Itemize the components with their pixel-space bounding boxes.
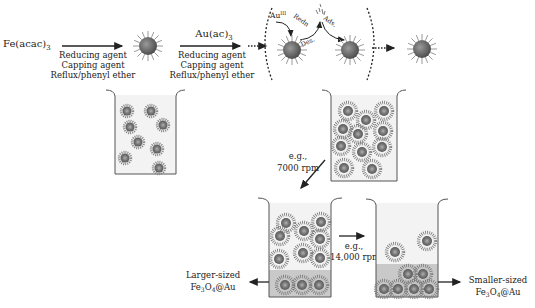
svg-text:Fe3O4@Au: Fe3O4@Au bbox=[190, 282, 236, 293]
svg-text:Capping agent: Capping agent bbox=[61, 60, 125, 70]
svg-text:Reflux/phenyl ether: Reflux/phenyl ether bbox=[170, 70, 256, 80]
fe3o4-nanoparticle-icon bbox=[133, 31, 163, 61]
step2-precursor-label: Au(ac)3 bbox=[194, 28, 233, 42]
step1-precursor-label: Fe(acac)3 bbox=[3, 38, 51, 52]
beaker-fe3o4-au-dispersed bbox=[322, 90, 406, 181]
svg-text:Reflux/phenyl ether: Reflux/phenyl ether bbox=[51, 70, 137, 80]
mechanism-labels: AuIII Redn Des. Ads. bbox=[269, 10, 338, 49]
centrifuge-14000rpm-label: e.g., 14,000 rpm bbox=[330, 241, 380, 262]
reduction-arrow bbox=[276, 22, 291, 36]
beaker-fe3o4 bbox=[106, 90, 185, 174]
beaker-larger-sediment bbox=[258, 198, 342, 297]
synthesis-diagram: Fe(acac)3 Reducing agent Capping agent R… bbox=[0, 0, 535, 308]
svg-text:7000 rpm: 7000 rpm bbox=[277, 163, 319, 173]
svg-text:Des.: Des. bbox=[299, 35, 315, 48]
au-reduction-particle-icon bbox=[277, 35, 307, 65]
svg-text:e.g.,: e.g., bbox=[345, 241, 364, 251]
fe3o4-au-nanoparticle-icon bbox=[407, 34, 437, 64]
svg-text:Reducing agent: Reducing agent bbox=[178, 50, 246, 60]
centrifuge-7000rpm-label: e.g., 7000 rpm bbox=[277, 151, 319, 173]
svg-text:Larger-sized: Larger-sized bbox=[186, 270, 241, 280]
step1-conditions: Reducing agent Capping agent Reflux/phen… bbox=[51, 50, 137, 80]
svg-text:Capping agent: Capping agent bbox=[180, 60, 244, 70]
svg-text:AuIII: AuIII bbox=[269, 10, 286, 20]
beaker-smaller-sediment bbox=[366, 199, 448, 298]
ligand-fragments-icon bbox=[316, 4, 325, 15]
step2-conditions: Reducing agent Capping agent Reflux/phen… bbox=[170, 50, 256, 80]
svg-text:e.g.,: e.g., bbox=[289, 151, 308, 161]
svg-text:Au(ac)3: Au(ac)3 bbox=[194, 28, 233, 42]
au-adsorption-particle-icon bbox=[335, 35, 365, 65]
svg-text:14,000 rpm: 14,000 rpm bbox=[330, 252, 380, 262]
mechanism-bracket bbox=[265, 8, 374, 80]
svg-text:Smaller-sized: Smaller-sized bbox=[469, 275, 528, 285]
svg-text:Fe3O4@Au: Fe3O4@Au bbox=[475, 287, 521, 298]
svg-text:Reducing agent: Reducing agent bbox=[59, 50, 127, 60]
svg-text:Redn: Redn bbox=[292, 12, 311, 28]
smaller-sized-product-label: Smaller-sized Fe3O4@Au bbox=[469, 275, 528, 298]
larger-sized-product-label: Larger-sized Fe3O4@Au bbox=[186, 270, 241, 293]
svg-text:Fe(acac)3: Fe(acac)3 bbox=[3, 38, 51, 52]
